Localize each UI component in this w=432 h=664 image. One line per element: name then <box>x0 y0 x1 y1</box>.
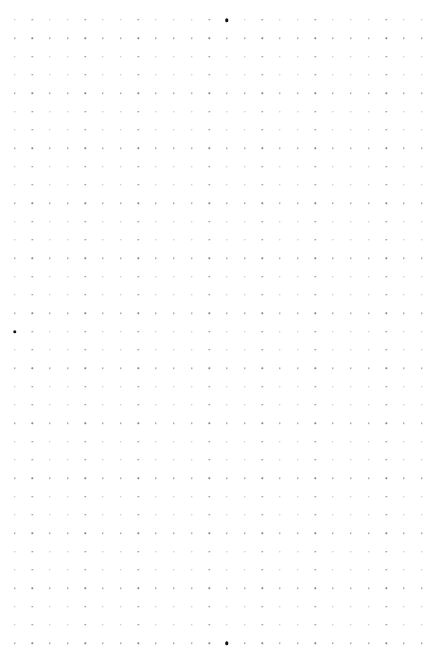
grid-dot <box>297 551 298 552</box>
grid-dot <box>350 111 351 112</box>
grid-dot <box>31 569 32 570</box>
grid-dot <box>155 276 156 277</box>
grid-dot <box>368 111 369 112</box>
grid-dot <box>421 221 422 222</box>
grid-dot <box>208 551 209 552</box>
grid-dot <box>14 111 15 112</box>
grid-dot <box>279 129 280 130</box>
grid-dot <box>279 276 280 277</box>
grid-dot <box>208 569 209 570</box>
grid-dot <box>226 38 227 39</box>
grid-dot <box>14 148 15 149</box>
grid-dot <box>31 93 32 94</box>
grid-dot <box>226 569 227 570</box>
grid-dot <box>350 514 351 515</box>
grid-dot <box>191 496 192 497</box>
grid-dot <box>315 643 316 644</box>
grid-dot <box>14 294 15 295</box>
grid-dot <box>67 551 68 552</box>
grid-dot <box>49 166 50 167</box>
grid-dot <box>279 459 280 460</box>
grid-dot <box>49 624 50 625</box>
grid-dot <box>368 441 369 442</box>
grid-dot <box>244 258 245 259</box>
grid-dot <box>262 606 263 607</box>
grid-dot <box>244 93 245 94</box>
grid-dot <box>191 166 192 167</box>
grid-dot <box>191 386 192 387</box>
grid-dot <box>279 606 280 607</box>
grid-dot <box>244 569 245 570</box>
grid-dot <box>226 368 227 369</box>
grid-dot <box>102 74 103 75</box>
grid-dot <box>173 239 174 240</box>
grid-dot <box>49 588 50 589</box>
grid-dot <box>208 294 209 295</box>
grid-dot <box>155 478 156 479</box>
grid-dot <box>385 38 386 39</box>
grid-dot <box>244 533 245 534</box>
grid-dot <box>208 239 209 240</box>
grid-dot <box>226 551 227 552</box>
grid-dot <box>403 349 404 350</box>
grid-dot <box>49 331 50 332</box>
grid-dot <box>421 148 422 149</box>
grid-dot <box>173 19 174 20</box>
grid-dot <box>262 38 263 39</box>
grid-dot <box>332 368 333 369</box>
grid-dot <box>315 606 316 607</box>
grid-dot <box>31 404 32 405</box>
grid-dot <box>350 294 351 295</box>
grid-dot <box>350 38 351 39</box>
grid-dot <box>244 129 245 130</box>
grid-dot <box>14 606 15 607</box>
grid-dot <box>262 496 263 497</box>
grid-dot <box>244 368 245 369</box>
grid-dot <box>315 203 316 204</box>
grid-dot <box>421 514 422 515</box>
grid-dot <box>262 148 263 149</box>
grid-dot <box>244 166 245 167</box>
grid-dot <box>138 569 139 570</box>
grid-dot <box>421 38 422 39</box>
grid-dot <box>67 74 68 75</box>
grid-dot <box>49 184 50 185</box>
grid-dot <box>120 294 121 295</box>
grid-dot <box>262 184 263 185</box>
grid-dot <box>421 56 422 57</box>
grid-dot <box>297 166 298 167</box>
grid-dot <box>385 459 386 460</box>
grid-dot <box>208 19 209 20</box>
grid-dot <box>102 129 103 130</box>
grid-dot <box>14 624 15 625</box>
grid-dot <box>49 93 50 94</box>
grid-dot <box>191 221 192 222</box>
grid-dot <box>315 313 316 314</box>
grid-dot <box>14 496 15 497</box>
grid-dot <box>120 459 121 460</box>
grid-dot <box>155 93 156 94</box>
grid-dot <box>315 166 316 167</box>
grid-dot <box>315 496 316 497</box>
grid-dot <box>85 496 86 497</box>
grid-dot <box>315 404 316 405</box>
grid-dot <box>120 129 121 130</box>
grid-dot <box>368 93 369 94</box>
grid-dot <box>262 459 263 460</box>
grid-dot <box>102 404 103 405</box>
grid-dot <box>67 148 68 149</box>
grid-dot <box>297 203 298 204</box>
grid-dot <box>138 551 139 552</box>
grid-dot <box>421 19 422 20</box>
grid-dot <box>14 221 15 222</box>
grid-dot <box>102 239 103 240</box>
grid-dot <box>315 459 316 460</box>
grid-dot <box>332 166 333 167</box>
grid-dot <box>67 459 68 460</box>
grid-dot <box>332 148 333 149</box>
grid-dot <box>14 551 15 552</box>
grid-dot <box>173 514 174 515</box>
grid-dot <box>49 38 50 39</box>
grid-dot <box>191 478 192 479</box>
grid-dot <box>120 624 121 625</box>
